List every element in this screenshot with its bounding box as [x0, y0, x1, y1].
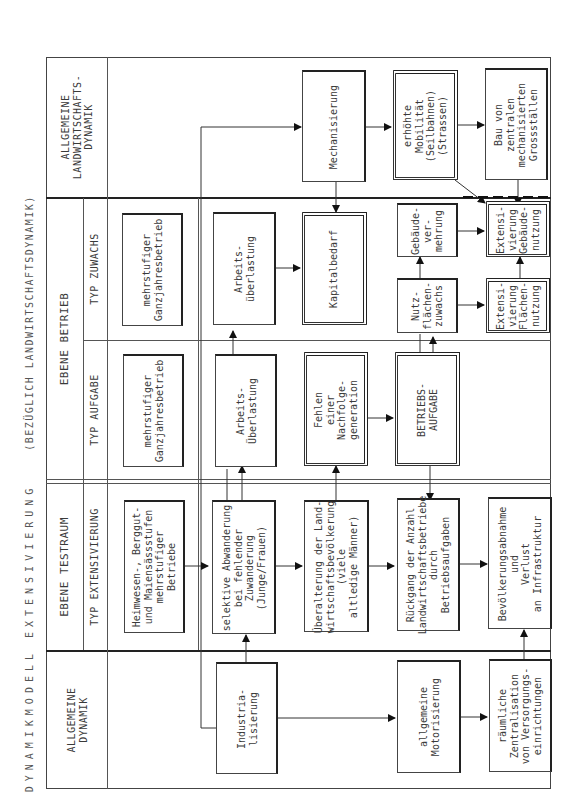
box-text: Kapitalbedarf — [328, 230, 340, 308]
box-zuwachs-ganzjahresbetrieb: mehrstufiger Ganzjahresbetrieb — [122, 213, 183, 326]
box-text: erhöhte Mobilität (Seilbahnen) (Strassen… — [402, 89, 448, 161]
box-text: Arbeits- Überlastung — [234, 378, 257, 444]
box-industrialisierung: Industria- lisierung — [216, 662, 278, 774]
box-text: Rückgang der Anzahl Landwirtschaftsbetri… — [405, 496, 451, 634]
box-kapitalbedarf: Kapitalbedarf — [302, 212, 367, 325]
box-zentralisation: räumliche Zentralisation von Versorgungs… — [489, 659, 552, 772]
box-motorisierung: allgemeine Motorisierung — [397, 660, 461, 773]
box-text: Bevölkerungsabnahme und Verlust an Infra… — [497, 506, 543, 620]
box-betriebsaufgabe: BETRIEBS- AUFGABE — [395, 352, 460, 466]
box-text: allgemeine Motorisierung — [417, 678, 440, 756]
box-nutzflaechenzuwachs: Nutz- flächen- zuwachs — [397, 278, 458, 333]
box-text: Nutz- flächen- zuwachs — [410, 282, 445, 330]
box-ueberalterung: Überalterung der Land- wirtschaftsbevölk… — [304, 500, 369, 632]
box-text: räumliche Zentralisation von Versorgungs… — [497, 668, 543, 764]
box-text: Mechanisierung — [328, 84, 340, 168]
box-heimwesen: Heimwesen-, Berggut- und Maiensässstufen… — [124, 500, 185, 633]
box-text: Heimwesen-, Berggut- und Maiensässstufen… — [131, 507, 177, 627]
box-extensivierung-flaechen: Extensi- vierung Flächen- nutzung — [486, 278, 550, 333]
box-text: selektive Abwanderung bei fehlender Zuwa… — [221, 504, 267, 630]
box-text: Arbeits- überlastung — [233, 236, 256, 302]
box-text: Gebäude- ver- mehrung — [410, 206, 445, 254]
box-text: Überalterung der Land- wirtschaftsbevölk… — [313, 500, 359, 632]
box-text: Bau von zentralen mechanisierten Grossst… — [493, 82, 539, 166]
box-aufgabe-arbeitsueberlastung: Arbeits- Überlastung — [215, 354, 277, 467]
box-erhoehte-mobilitaet: erhöhte Mobilität (Seilbahnen) (Strassen… — [393, 70, 458, 180]
box-gebaeudevermehrung: Gebäude- ver- mehrung — [397, 203, 458, 257]
box-text: BETRIEBS- AUFGABE — [416, 382, 439, 436]
box-fehlende-nachfolge: Fehlen einer Nachfolge- generation — [304, 352, 368, 466]
box-text: mehrstufiger Ganzjahresbetrieb — [141, 219, 164, 321]
box-text: Industria- lisierung — [235, 688, 258, 748]
box-grossstaelle: Bau von zentralen mechanisierten Grossst… — [485, 68, 548, 180]
box-bevoelkerungsabnahme: Bevölkerungsabnahme und Verlust an Infra… — [488, 497, 552, 629]
box-text: Fehlen einer Nachfolge- generation — [313, 379, 359, 439]
box-zuwachs-arbeitsueberlastung: Arbeits- überlastung — [213, 212, 276, 325]
box-text: Extensi- vierung Gebäude- nutzung — [495, 205, 541, 253]
box-extensivierung-gebaeude: Extensi- vierung Gebäude- nutzung — [486, 201, 550, 257]
box-mechanisierung: Mechanisierung — [302, 70, 366, 182]
box-selektive-abwanderung: selektive Abwanderung bei fehlender Zuwa… — [212, 500, 276, 634]
box-rueckgang-betriebe: Rückgang der Anzahl Landwirtschaftsbetri… — [397, 498, 460, 631]
box-text: Extensi- vierung Flächen- nutzung — [495, 282, 541, 330]
box-aufgabe-ganzjahresbetrieb: mehrstufiger Ganzjahresbetrieb — [123, 354, 184, 467]
box-text: mehrstufiger Ganzjahresbetrieb — [142, 360, 165, 462]
